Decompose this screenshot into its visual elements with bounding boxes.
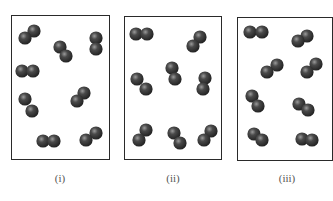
container-box-i (11, 15, 110, 160)
panel-label-ii: (ii) (143, 172, 203, 184)
panel-label-iii: (iii) (257, 172, 317, 184)
panel-label-i: (i) (30, 172, 90, 184)
container-box-ii (124, 16, 222, 160)
container-box-iii (237, 17, 333, 161)
